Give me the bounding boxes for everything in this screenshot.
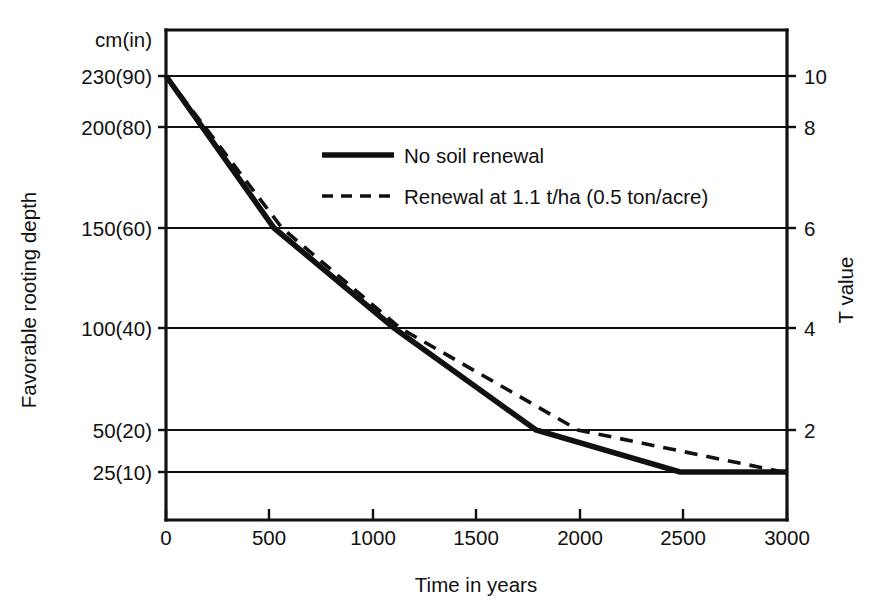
y2tick-label-10: 10 [804, 65, 827, 88]
ytick-label-25: 25(10) [93, 461, 152, 484]
y-axis-unit-header: cm(in) [95, 28, 152, 51]
chart-background [0, 0, 876, 608]
ytick-label-150: 150(60) [81, 217, 152, 240]
legend-label-renewal: Renewal at 1.1 t/ha (0.5 ton/acre) [404, 185, 708, 208]
xtick-label-500: 500 [252, 526, 286, 549]
ytick-label-100: 100(40) [81, 317, 152, 340]
ytick-label-200: 200(80) [81, 116, 152, 139]
xtick-label-1000: 1000 [350, 526, 396, 549]
xtick-label-2000: 2000 [557, 526, 603, 549]
y2tick-label-4: 4 [804, 317, 815, 340]
ytick-label-230: 230(90) [81, 65, 152, 88]
chart-canvas: cm(in) 230(90) 200(80) 150(60) 100(40) 5… [0, 0, 876, 608]
x-axis-title: Time in years [415, 573, 537, 596]
xtick-label-0: 0 [160, 526, 171, 549]
y2tick-label-2: 2 [804, 419, 815, 442]
legend-label-no-renewal: No soil renewal [404, 144, 544, 167]
y2tick-label-8: 8 [804, 116, 815, 139]
ytick-label-50: 50(20) [93, 419, 152, 442]
y2-axis-title: T value [834, 257, 857, 324]
chart-figure: cm(in) 230(90) 200(80) 150(60) 100(40) 5… [0, 0, 876, 608]
y2tick-label-6: 6 [804, 217, 815, 240]
xtick-label-3000: 3000 [764, 526, 810, 549]
xtick-label-1500: 1500 [453, 526, 499, 549]
y-axis-title: Favorable rooting depth [17, 192, 40, 409]
xtick-label-2500: 2500 [660, 526, 706, 549]
